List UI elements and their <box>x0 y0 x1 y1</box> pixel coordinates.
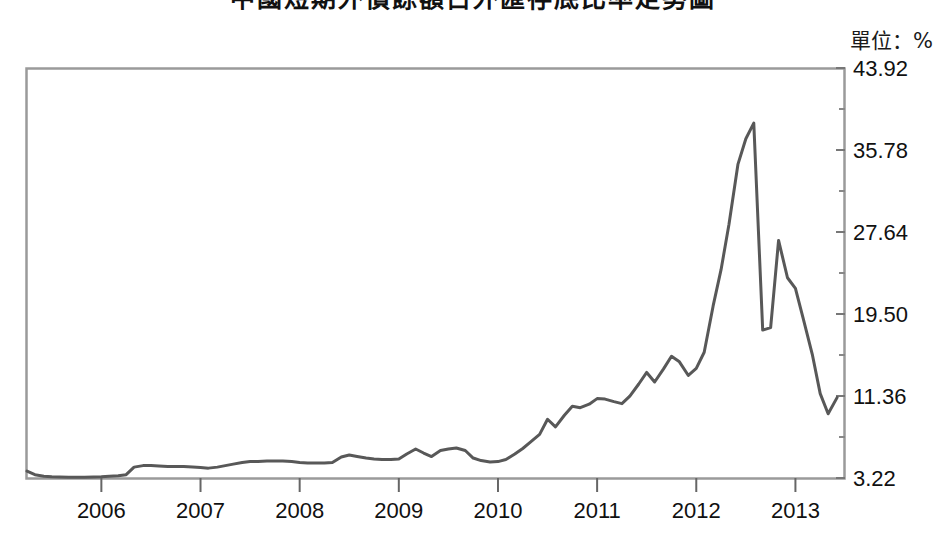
y-tick-label: 43.92 <box>853 56 908 81</box>
x-tick-label: 2009 <box>374 498 423 523</box>
x-tick-label: 2010 <box>473 498 522 523</box>
line-chart-plot: 3.2211.3619.5027.6435.7843.92 2006200720… <box>0 0 945 541</box>
y-tick-label: 35.78 <box>853 138 908 163</box>
x-tick-label: 2006 <box>77 498 126 523</box>
x-tick-label: 2012 <box>672 498 721 523</box>
x-axis-tick-labels: 20062007200820092010201120122013 <box>77 498 820 523</box>
y-tick-label: 19.50 <box>853 302 908 327</box>
x-axis-ticks <box>101 478 795 492</box>
y-tick-label: 3.22 <box>853 466 896 491</box>
x-tick-label: 2007 <box>176 498 225 523</box>
plot-frame <box>27 69 845 479</box>
x-tick-label: 2011 <box>573 498 620 523</box>
x-tick-label: 2013 <box>771 498 820 523</box>
y-axis-tick-labels: 3.2211.3619.5027.6435.7843.92 <box>853 56 908 491</box>
x-tick-label: 2008 <box>275 498 324 523</box>
y-tick-label: 11.36 <box>853 384 906 409</box>
y-tick-label: 27.64 <box>853 220 908 245</box>
chart-figure: 中國短期外債餘額占外匯存底比率走勢圖 單位：% 3.2211.3619.5027… <box>0 0 945 541</box>
